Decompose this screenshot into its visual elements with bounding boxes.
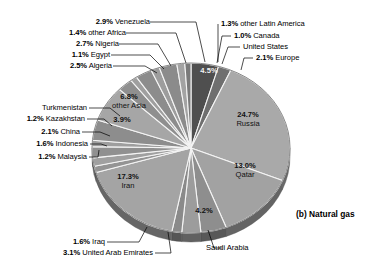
callout-china-pct: 2.1% [41,127,58,136]
callout-egypt-pct: 1.1% [72,50,89,59]
callout-china: 2.1% China [0,127,80,136]
callout-venezuela-pct: 2.9% [96,17,113,26]
slice-label-russia: 24.7% Russia [222,110,274,128]
callout-united-arab-emirates: 3.1% United Arab Emirates [18,248,153,257]
callout-nigeria-pct: 2.7% [76,39,93,48]
callout-nigeria: 2.7% Nigeria [10,39,119,48]
callout-algeria: 2.5% Algeria [8,61,112,70]
callout-kazakhstan-pct: 1.2% [27,114,44,123]
callout-malaysia: 1.2% Malaysia [0,152,87,161]
callout-indonesia-name: Indonesia [56,139,88,148]
slice-label-iran-pct: 17.3% [117,172,139,181]
callout-egypt: 1.1% Egypt [10,50,110,59]
callout-united-states: United States [243,42,288,51]
callout-other-latin-america: 1.3% other Latin America [221,19,305,28]
slice-label-iran: 17.3% Iran [104,172,152,190]
slice-label-other-asia: 6.8% other Asia [100,92,158,110]
slice-label-turkmenistan: 3.9% [102,115,142,124]
slice-label-russia-name: Russia [236,119,259,128]
callout-europe: 2.1% Europe [256,53,299,62]
slice-label-turkmenistan-pct: 3.9% [113,115,130,124]
slice-label-russia-pct: 24.7% [237,110,259,119]
slice-label-other-asia-pct: 6.8% [120,92,137,101]
callout-kazakhstan-name: Kazakhstan [46,114,85,123]
callout-malaysia-pct: 1.2% [38,152,55,161]
callout-canada: 1.0% Canada [234,31,279,40]
pie-side-united-arab-emirates [182,233,201,242]
chart-figure: 2.9% Venezuela 1.4% other Africa 2.7% Ni… [0,0,379,270]
callout-indonesia: 1.6% Indonesia [0,139,88,148]
callout-algeria-pct: 2.5% [70,61,87,70]
callout-other-africa-pct: 1.4% [69,28,86,37]
slice-label-saudi-arabia: 4.2% [184,206,224,215]
slice-label-qatar-name: Qatar [236,170,255,179]
callout-canada-name: Canada [253,31,279,40]
callout-turkmenistan-name: Turkmenistan [42,103,87,112]
callout-saudi-arabia: Saudi Arabia [206,243,248,252]
callout-venezuela: 2.9% Venezuela [18,17,150,26]
callout-canada-pct: 1.0% [234,31,251,40]
callout-iraq-name: Iraq [92,237,105,246]
slice-label-qatar: 13.0% Qatar [219,161,271,179]
callout-europe-name: Europe [275,53,299,62]
callout-iraq: 1.6% Iraq [38,237,105,246]
callout-united-states-name: United States [243,42,288,51]
callout-other-africa-name: other Africa [88,28,126,37]
callout-venezuela-name: Venezuela [115,17,150,26]
callout-china-name: China [60,127,80,136]
callout-algeria-name: Algeria [89,61,112,70]
callout-indonesia-pct: 1.6% [36,139,53,148]
callout-other-africa: 1.4% other Africa [0,28,126,37]
slice-label-iran-name: Iran [121,181,134,190]
callout-other-latin-america-name: other Latin America [240,19,304,28]
callout-nigeria-name: Nigeria [95,39,119,48]
slice-label-united-states-pct: 4.5% [200,66,217,75]
callout-uae-name: United Arab Emirates [82,248,153,257]
callout-other-latin-america-pct: 1.3% [221,19,238,28]
slice-label-united-states: 4.5% [189,66,229,75]
callout-uae-pct: 3.1% [63,248,80,257]
callout-saudi-name: Saudi Arabia [206,243,248,252]
callout-egypt-name: Egypt [91,50,110,59]
callout-iraq-pct: 1.6% [73,237,90,246]
slice-label-other-asia-name: other Asia [112,101,146,110]
callout-malaysia-name: Malaysia [57,152,87,161]
slice-label-saudi-pct: 4.2% [195,206,212,215]
callout-turkmenistan: Turkmenistan [0,103,87,112]
slice-label-qatar-pct: 13.0% [234,161,256,170]
callout-europe-pct: 2.1% [256,53,273,62]
callout-kazakhstan: 1.2% Kazakhstan [0,114,85,123]
figure-caption: (b) Natural gas [296,209,355,219]
